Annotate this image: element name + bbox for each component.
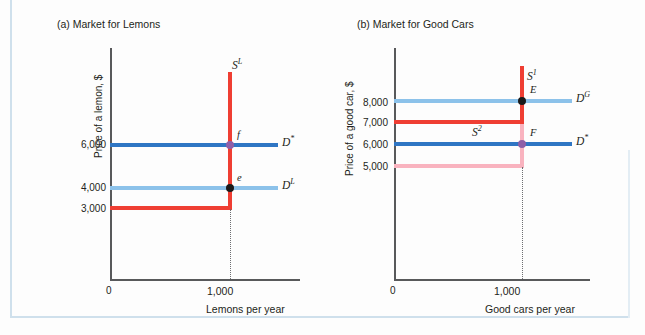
panel-b-demand-star-label: D*	[576, 133, 588, 147]
panel-a-demand-star-label: D*	[282, 134, 294, 148]
panel-a-supply-curve-horizontal	[110, 206, 232, 210]
panel-b-x-axis	[394, 279, 590, 281]
panel-b-supply2-label-sup: 2	[478, 124, 482, 133]
panel-b-supply1-curve-vertical	[520, 66, 524, 124]
panel-market-for-good-cars: (b) Market for Good Cars Price of a good…	[322, 0, 644, 335]
panel-a-ytick-3000: 3,000	[58, 203, 106, 214]
panel-b-ytick-5000: 5,000	[340, 161, 388, 172]
panel-a-demand-lemon-label-sup: L	[290, 177, 294, 186]
panel-b-ytick-7000: 7,000	[340, 117, 388, 128]
panel-b-supply1-curve-horizontal	[394, 120, 524, 124]
panel-a-origin-label: 0	[106, 285, 112, 296]
panel-a-quantity-drop-line	[230, 209, 231, 279]
panel-b-point-F-marker	[518, 140, 526, 148]
panel-a-point-f-marker	[226, 141, 234, 149]
panel-a-x-axis	[110, 279, 300, 281]
panel-a-xtick-1000: 1,000	[207, 285, 233, 297]
panel-a-demand-lemon-curve	[110, 186, 278, 190]
panel-b-supply1-label-sup: 1	[533, 68, 537, 77]
panel-a-point-f-label: f	[237, 129, 240, 140]
panel-b-ytick-6000: 6,000	[340, 139, 388, 150]
panel-b-demand-good-label: DG	[576, 90, 590, 104]
panel-b-demand-good-curve	[394, 99, 572, 103]
panel-a-x-axis-label: Lemons per year	[206, 303, 285, 315]
panel-a-supply-curve-label: SL	[232, 57, 242, 71]
panel-b-ytick-8000: 8,000	[340, 97, 388, 108]
panel-b-x-axis-label: Good cars per year	[485, 303, 575, 315]
panel-b-supply2-curve-horizontal	[394, 164, 524, 168]
panel-b-xtick-1000: 1,000	[494, 285, 520, 297]
panel-b-point-F-label: F	[530, 127, 536, 138]
panel-b-supply1-label: S1	[527, 68, 537, 82]
panel-a-point-e-label: e	[237, 172, 242, 183]
panel-a-demand-star-curve	[110, 143, 278, 147]
panel-market-for-lemons: (a) Market for Lemons Price of a lemon, …	[0, 0, 322, 335]
panel-a-demand-lemon-label: DL	[282, 177, 295, 191]
panel-a-title: (a) Market for Lemons	[57, 18, 160, 30]
panel-b-demand-star-label-sup: *	[584, 133, 588, 142]
panel-a-ytick-6000: 6,000	[58, 139, 106, 150]
economics-figure: (a) Market for Lemons Price of a lemon, …	[0, 0, 645, 335]
panel-a-point-e-marker	[226, 184, 234, 192]
panel-b-title: (b) Market for Good Cars	[357, 18, 474, 30]
panel-a-ytick-4000: 4,000	[58, 182, 106, 193]
panel-a-demand-star-label-sup: *	[290, 134, 294, 143]
panel-b-origin-label: 0	[390, 285, 396, 296]
panel-b-point-E-marker	[518, 97, 526, 105]
panel-b-demand-good-label-sup: G	[584, 90, 590, 99]
panel-b-quantity-drop-line	[522, 167, 523, 279]
panel-b-supply2-label: S2	[472, 124, 482, 138]
panel-a-supply-label-sup: L	[238, 57, 242, 66]
panel-a-y-axis	[110, 48, 112, 280]
panel-b-point-E-label: E	[530, 84, 536, 95]
panel-b-demand-star-curve	[394, 142, 572, 146]
